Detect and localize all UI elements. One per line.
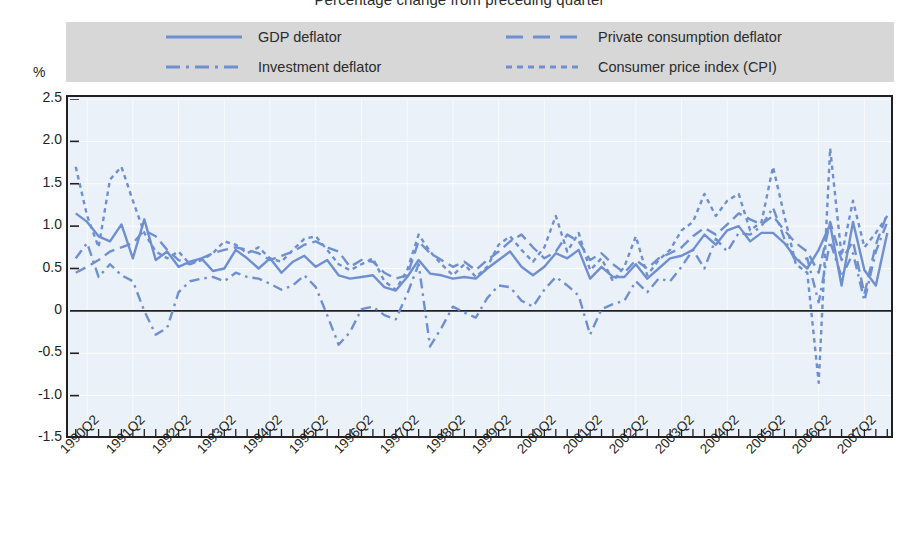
series-line bbox=[76, 207, 888, 346]
legend-item-consumer-price-index[interactable]: Consumer price index (CPI) bbox=[506, 52, 777, 82]
y-axis-tick-label: 1.5 bbox=[6, 175, 62, 189]
legend-label-consumer-price-index: Consumer price index (CPI) bbox=[598, 59, 777, 75]
chart-legend: GDP deflator Private consumption deflato… bbox=[66, 22, 894, 82]
legend-label-investment-deflator: Investment deflator bbox=[258, 59, 381, 75]
x-axis-labels: 1990Q21991Q21992Q21993Q21994Q21995Q21996… bbox=[0, 440, 919, 534]
y-axis-tick-label: -0.5 bbox=[6, 344, 62, 358]
legend-swatch-consumer-price-index-icon bbox=[506, 60, 582, 74]
y-axis-tick-label: 2.5 bbox=[6, 90, 62, 104]
legend-swatch-private-consumption-deflator-icon bbox=[506, 30, 582, 44]
legend-item-private-consumption-deflator[interactable]: Private consumption deflator bbox=[506, 22, 782, 52]
y-axis-tick-label: 0.5 bbox=[6, 260, 62, 274]
y-axis-ticks bbox=[70, 99, 79, 438]
gridlines bbox=[70, 99, 893, 438]
legend-label-private-consumption-deflator: Private consumption deflator bbox=[598, 29, 782, 45]
legend-swatch-gdp-deflator-icon bbox=[166, 30, 242, 44]
y-axis-tick-label: 0 bbox=[6, 302, 62, 316]
y-axis-tick-label: -1.0 bbox=[6, 387, 62, 401]
plot-area bbox=[66, 95, 893, 438]
page-title: Percentage change from preceding quarter bbox=[0, 0, 919, 8]
legend-swatch-investment-deflator-icon bbox=[166, 60, 242, 74]
y-axis-tick-label: 1.0 bbox=[6, 217, 62, 231]
series-line bbox=[76, 213, 888, 294]
y-axis-tick-label: 2.0 bbox=[6, 132, 62, 146]
legend-item-investment-deflator[interactable]: Investment deflator bbox=[166, 52, 381, 82]
legend-label-gdp-deflator: GDP deflator bbox=[258, 29, 342, 45]
legend-item-gdp-deflator[interactable]: GDP deflator bbox=[166, 22, 342, 52]
series-canvas bbox=[70, 99, 893, 438]
